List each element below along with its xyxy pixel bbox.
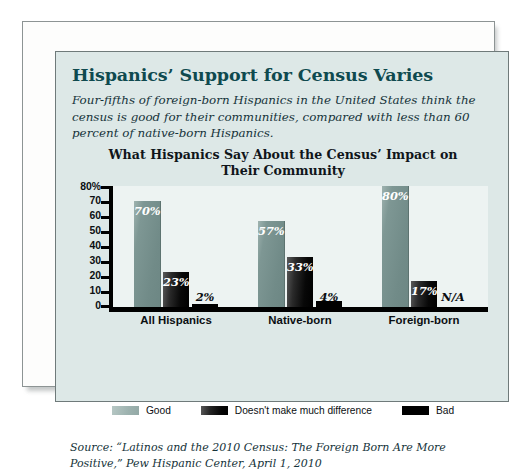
legend-label-difference: Doesn't make much difference (235, 405, 372, 416)
y-tick-label-60: 60 (59, 211, 101, 221)
figure-card: Hispanics’ Support for Census Varies Fou… (22, 21, 495, 387)
y-tick-label-40: 40 (59, 241, 101, 251)
bar-value-label: 17% (411, 284, 437, 298)
source-note: Source: “Latinos and the 2010 Census: Th… (70, 440, 494, 472)
x-axis-line (109, 307, 488, 312)
bar-slot-difference: 23% (163, 186, 189, 307)
bar-value-label: 2% (188, 290, 222, 304)
bar-value-label: 33% (287, 260, 313, 274)
bar-all-hispanics-bad[interactable]: 2% (192, 304, 218, 307)
bar-slot-bad: N/A (440, 186, 466, 307)
legend-swatch-good-icon (112, 406, 139, 415)
y-axis-labels: 80% 70 60 50 40 30 20 10 0 (56, 186, 101, 308)
bar-slot-bad: 4% (316, 186, 342, 307)
bar-all-hispanics-good[interactable]: 70% (134, 201, 161, 307)
x-axis-category-labels: All Hispanics Native-born Foreign-born (114, 314, 486, 326)
bar-group-foreign-born: 80% 17% N/A (382, 186, 466, 307)
page-title: Hispanics’ Support for Census Varies (72, 65, 494, 85)
y-tick-label-0: 0 (59, 301, 101, 311)
bar-native-born-difference[interactable]: 33% (287, 257, 313, 307)
legend-label-bad: Bad (436, 405, 454, 416)
figure-panel: Hispanics’ Support for Census Varies Fou… (55, 51, 509, 402)
chart-legend: Good Doesn't make much difference Bad (56, 405, 510, 416)
bar-foreign-born-bad-missing: N/A (440, 306, 466, 307)
plot-area: 80% 70 60 50 40 30 20 10 0 (56, 186, 510, 321)
chart-title: What Hispanics Say About the Census’ Imp… (56, 147, 510, 179)
bar-slot-good: 57% (258, 186, 284, 307)
category-label-all-hispanics: All Hispanics (121, 314, 231, 326)
legend-item-good[interactable]: Good (112, 405, 171, 416)
bar-value-label: 23% (163, 275, 189, 289)
y-tick-label-70: 70 (59, 196, 101, 206)
y-tick-label-10: 10 (59, 286, 101, 296)
bar-value-label: 4% (312, 290, 346, 304)
bar-group-all-hispanics: 70% 23% 2% (134, 186, 218, 307)
bar-native-born-good[interactable]: 57% (258, 221, 285, 307)
legend-label-good: Good (146, 405, 171, 416)
bar-value-label: 70% (134, 204, 160, 218)
bar-slot-good: 80% (382, 186, 408, 307)
legend-item-bad[interactable]: Bad (402, 405, 454, 416)
bar-native-born-bad[interactable]: 4% (316, 301, 342, 307)
y-tick-label-30: 30 (59, 256, 101, 266)
category-label-foreign-born: Foreign-born (369, 314, 479, 326)
bar-all-hispanics-difference[interactable]: 23% (163, 272, 189, 307)
category-label-native-born: Native-born (245, 314, 355, 326)
bar-value-label: 80% (382, 189, 408, 203)
bar-group-native-born: 57% 33% 4% (258, 186, 342, 307)
legend-swatch-difference-icon (201, 406, 228, 415)
chart-block: What Hispanics Say About the Census’ Imp… (56, 147, 510, 321)
bar-slot-difference: 33% (287, 186, 313, 307)
bar-slot-good: 70% (134, 186, 160, 307)
legend-item-difference[interactable]: Doesn't make much difference (201, 405, 372, 416)
bar-groups: 70% 23% 2% (114, 186, 486, 307)
bar-foreign-born-good[interactable]: 80% (382, 186, 409, 307)
bar-slot-difference: 17% (411, 186, 437, 307)
y-axis-line (109, 186, 113, 308)
y-tick-label-80: 80% (59, 182, 101, 192)
y-tick-label-20: 20 (59, 271, 101, 281)
legend-swatch-bad-icon (402, 406, 429, 415)
figure-deck: Four-fifths of foreign-born Hispanics in… (72, 92, 484, 142)
bar-value-label: 57% (258, 224, 284, 238)
y-tick-label-50: 50 (59, 226, 101, 236)
bar-foreign-born-difference[interactable]: 17% (411, 281, 437, 307)
bar-slot-bad: 2% (192, 186, 218, 307)
bar-value-label: N/A (436, 290, 470, 304)
